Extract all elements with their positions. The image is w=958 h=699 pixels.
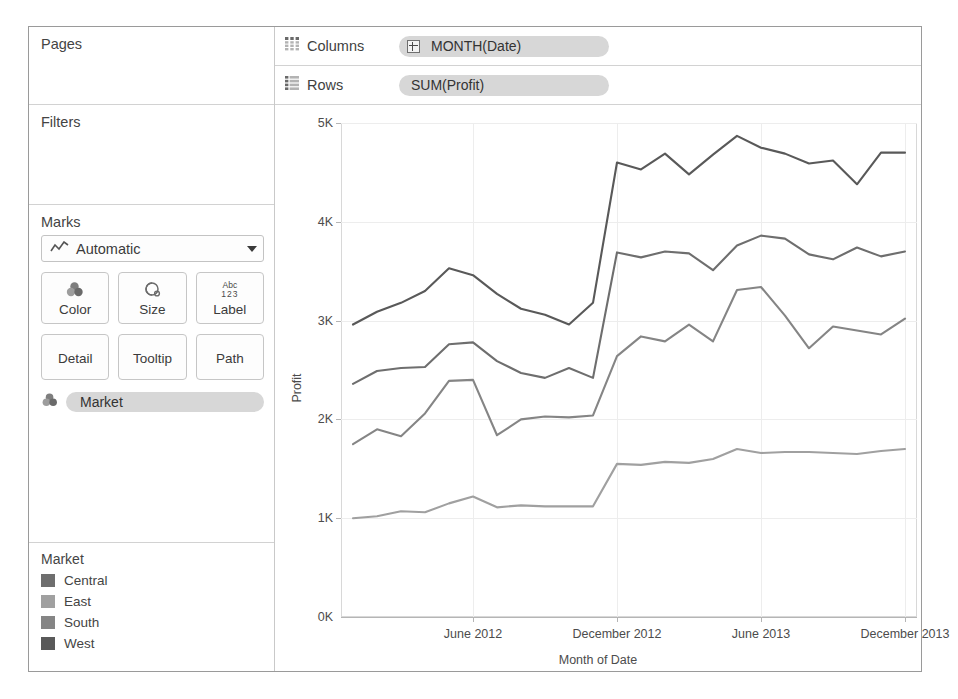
marks-card: Marks Automatic (29, 205, 274, 543)
legend-item-label: South (64, 615, 99, 630)
rows-grid-icon (285, 76, 299, 94)
rows-shelf-label: Rows (307, 77, 399, 93)
y-axis-tick-label: 4K (318, 215, 333, 229)
x-axis-tick-label: December 2013 (861, 627, 950, 641)
123-text: 123 (221, 290, 238, 299)
legend-item-label: East (64, 594, 91, 609)
legend-swatch (41, 574, 55, 587)
tooltip-button[interactable]: Tooltip (118, 334, 186, 380)
x-axis-line (341, 617, 917, 623)
tableau-worksheet: Pages Filters Marks Automatic (28, 26, 922, 672)
sidebar: Pages Filters Marks Automatic (29, 27, 275, 671)
path-button-label: Path (216, 351, 244, 366)
color-palette-icon (41, 392, 59, 412)
filters-drop-zone[interactable] (41, 135, 264, 149)
marks-encoding-row: Market (41, 392, 264, 412)
color-button[interactable]: Color (41, 272, 109, 324)
mark-type-value: Automatic (76, 241, 247, 257)
label-button[interactable]: Abc 123 Label (196, 272, 264, 324)
columns-grid-icon (285, 37, 299, 55)
y-axis-tick-label: 3K (318, 314, 333, 328)
y-axis-tick-label: 1K (318, 511, 333, 525)
y-axis-ticks: 0K1K2K3K4K5K (297, 123, 333, 617)
pages-card-title: Pages (41, 35, 264, 53)
line-chart-plot[interactable] (341, 123, 917, 617)
marks-button-row-2: Detail Tooltip Path (41, 334, 264, 380)
mark-type-dropdown[interactable]: Automatic (41, 235, 264, 262)
size-button-label: Size (139, 302, 165, 317)
legend-item-east[interactable]: East (41, 591, 264, 612)
y-axis-tick-label: 0K (318, 610, 333, 624)
rows-pill-sum-profit[interactable]: SUM(Profit) (399, 75, 609, 96)
plus-box-icon[interactable] (407, 40, 420, 53)
legend-item-west[interactable]: West (41, 633, 264, 654)
y-axis-tick-label: 2K (318, 412, 333, 426)
x-axis-tick-label: June 2013 (732, 627, 790, 641)
color-palette-icon (65, 280, 85, 300)
columns-pill-label: MONTH(Date) (431, 38, 521, 54)
detail-button-label: Detail (58, 351, 93, 366)
size-circle-icon (143, 280, 162, 300)
marks-button-row-1: Color Size Abc (41, 272, 264, 324)
legend-swatch (41, 595, 55, 608)
columns-shelf-label: Columns (307, 38, 399, 54)
size-button[interactable]: Size (118, 272, 186, 324)
main-panel: Columns MONTH(Date) Rows S (275, 27, 921, 671)
line-chart-icon (50, 240, 69, 258)
marks-pill-market[interactable]: Market (66, 392, 264, 412)
filters-card: Filters (29, 105, 274, 205)
path-button[interactable]: Path (196, 334, 264, 380)
rows-shelf[interactable]: Rows SUM(Profit) (275, 66, 921, 105)
legend-swatch (41, 637, 55, 650)
columns-pill-month-date[interactable]: MONTH(Date) (399, 36, 609, 57)
y-axis-tick-label: 5K (318, 116, 333, 130)
detail-button[interactable]: Detail (41, 334, 109, 380)
label-button-label: Label (213, 302, 246, 317)
legend-item-label: West (64, 636, 95, 651)
x-axis-title: Month of Date (275, 653, 921, 667)
tooltip-button-label: Tooltip (133, 351, 172, 366)
filters-card-title: Filters (41, 113, 264, 131)
color-legend-card: Market Central East South West (29, 543, 274, 671)
chevron-down-icon[interactable] (247, 246, 257, 252)
pages-drop-zone[interactable] (41, 57, 264, 71)
x-axis-tick-label: June 2012 (444, 627, 502, 641)
visualization-area[interactable]: Profit 0K1K2K3K4K5K June 2012December 20… (275, 105, 921, 671)
marks-card-title: Marks (41, 213, 264, 231)
legend-swatch (41, 616, 55, 629)
abc-123-icon: Abc 123 (221, 280, 238, 300)
x-axis-tick-label: December 2012 (573, 627, 662, 641)
legend-item-label: Central (64, 573, 108, 588)
pages-card: Pages (29, 27, 274, 105)
color-button-label: Color (59, 302, 91, 317)
columns-shelf[interactable]: Columns MONTH(Date) (275, 27, 921, 66)
legend-item-south[interactable]: South (41, 612, 264, 633)
legend-title: Market (41, 551, 264, 567)
legend-item-central[interactable]: Central (41, 570, 264, 591)
x-axis-ticks: June 2012December 2012June 2013December … (341, 627, 917, 647)
